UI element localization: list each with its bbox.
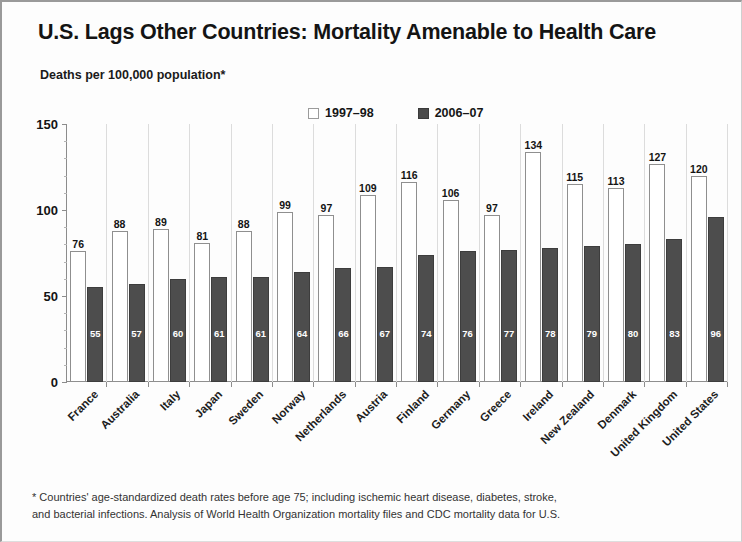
bar-2006-07: 76: [460, 251, 476, 382]
bar-value-label: 76: [462, 328, 473, 339]
bar-1997-98: 88: [112, 231, 128, 382]
category-label-text: France: [65, 388, 100, 423]
bar-value-label: 60: [173, 328, 184, 339]
hollow-square-icon: [308, 108, 319, 119]
bar-group: 11579: [563, 124, 604, 382]
bar-group: 9964: [273, 124, 314, 382]
bar-value-label: 83: [669, 328, 680, 339]
bar-1997-98: 134: [525, 152, 541, 382]
bar-value-label: 116: [401, 169, 418, 181]
bar-2006-07: 61: [253, 277, 269, 382]
bar-2006-07: 61: [211, 277, 227, 382]
bar-value-label: 55: [90, 328, 101, 339]
bar-value-label: 88: [114, 218, 126, 230]
category-label-text: Sweden: [226, 388, 265, 427]
bar-group: 9766: [314, 124, 355, 382]
bar-2006-07: 74: [418, 255, 434, 382]
bar-value-label: 67: [380, 328, 391, 339]
bar-group: 8161: [190, 124, 231, 382]
bar-value-label: 76: [72, 238, 84, 250]
slide-canvas: U.S. Lags Other Countries: Mortality Ame…: [0, 0, 742, 542]
bar-1997-98: 97: [318, 215, 334, 382]
chart-legend: 1997–982006–07: [308, 106, 483, 120]
bar-value-label: 64: [297, 328, 308, 339]
y-axis-tick-mark: [62, 382, 67, 383]
bar-1997-98: 120: [691, 176, 707, 382]
bar-value-label: 77: [504, 328, 515, 339]
bar-1997-98: 99: [277, 212, 293, 382]
bar-1997-98: 115: [567, 184, 583, 382]
bar-value-label: 81: [196, 230, 208, 242]
category-label-text: Japan: [192, 388, 224, 420]
bar-2006-07: 55: [87, 287, 103, 382]
filled-square-icon: [418, 108, 429, 119]
axis-caption: Deaths per 100,000 population*: [40, 68, 225, 82]
bar-value-label: 78: [545, 328, 556, 339]
footnote-line-2: and bacterial infections. Analysis of Wo…: [32, 506, 722, 523]
bar-value-label: 127: [649, 151, 667, 163]
bar-group: 12783: [645, 124, 686, 382]
bar-group: 8857: [107, 124, 148, 382]
category-label-text: Australia: [98, 388, 141, 431]
bar-2006-07: 66: [335, 268, 351, 382]
bar-group: 10967: [356, 124, 397, 382]
bar-value-label: 57: [131, 328, 142, 339]
bar-1997-98: 81: [194, 243, 210, 382]
bar-value-label: 97: [486, 202, 498, 214]
category-label-text: Greece: [478, 388, 514, 424]
bar-1997-98: 76: [70, 251, 86, 382]
bar-value-label: 74: [421, 328, 432, 339]
legend-label: 2006–07: [435, 106, 484, 120]
bar-value-label: 99: [279, 199, 291, 211]
legend-item-2: 2006–07: [418, 106, 484, 120]
category-label-text: Ireland: [520, 388, 555, 423]
category-label-text: Austria: [353, 388, 390, 425]
bar-group: 13478: [521, 124, 562, 382]
bar-2006-07: 57: [129, 284, 145, 382]
category-label-text: Germany: [429, 388, 473, 432]
bar-value-label: 113: [608, 175, 625, 187]
legend-item-1: 1997–98: [308, 106, 374, 120]
bar-value-label: 96: [711, 328, 722, 339]
bar-2006-07: 78: [542, 248, 558, 382]
bar-group: 10676: [438, 124, 479, 382]
footnote-line-1: * Countries' age-standardized death rate…: [32, 489, 722, 506]
chart-plot-area: 0501001507655885789608161886199649766109…: [66, 124, 728, 382]
bar-1997-98: 88: [236, 231, 252, 382]
category-label-text: Norway: [269, 388, 307, 426]
bar-group: 8861: [232, 124, 273, 382]
bar-value-label: 66: [338, 328, 349, 339]
bar-group: 9777: [480, 124, 521, 382]
y-axis-tick-label: 0: [22, 375, 58, 390]
y-axis-tick-label: 150: [22, 117, 58, 132]
chart-footnote: * Countries' age-standardized death rate…: [32, 489, 722, 523]
bar-value-label: 134: [525, 139, 543, 151]
bar-2006-07: 79: [584, 246, 600, 382]
bar-value-label: 120: [690, 163, 708, 175]
bar-value-label: 61: [214, 328, 225, 339]
bar-1997-98: 127: [649, 164, 665, 382]
legend-label: 1997–98: [325, 106, 374, 120]
bar-value-label: 89: [155, 216, 167, 228]
bar-value-label: 115: [566, 171, 583, 183]
bar-value-label: 79: [586, 328, 597, 339]
bar-group: 11674: [397, 124, 438, 382]
bar-value-label: 109: [359, 182, 377, 194]
bar-value-label: 97: [321, 202, 333, 214]
bar-1997-98: 106: [443, 200, 459, 382]
bar-group: 8960: [149, 124, 190, 382]
bar-1997-98: 116: [401, 182, 417, 382]
bar-2006-07: 60: [170, 279, 186, 382]
page-title: U.S. Lags Other Countries: Mortality Ame…: [38, 20, 718, 45]
category-label-text: Italy: [158, 388, 183, 413]
bar-value-label: 88: [238, 218, 250, 230]
category-label-text: Denmark: [595, 388, 638, 431]
y-axis-tick-label: 100: [22, 203, 58, 218]
bar-group: 7655: [66, 124, 107, 382]
category-label-text: Finland: [394, 388, 431, 425]
bar-value-label: 61: [255, 328, 266, 339]
bar-value-label: 106: [442, 187, 460, 199]
y-axis-tick-label: 50: [22, 289, 58, 304]
